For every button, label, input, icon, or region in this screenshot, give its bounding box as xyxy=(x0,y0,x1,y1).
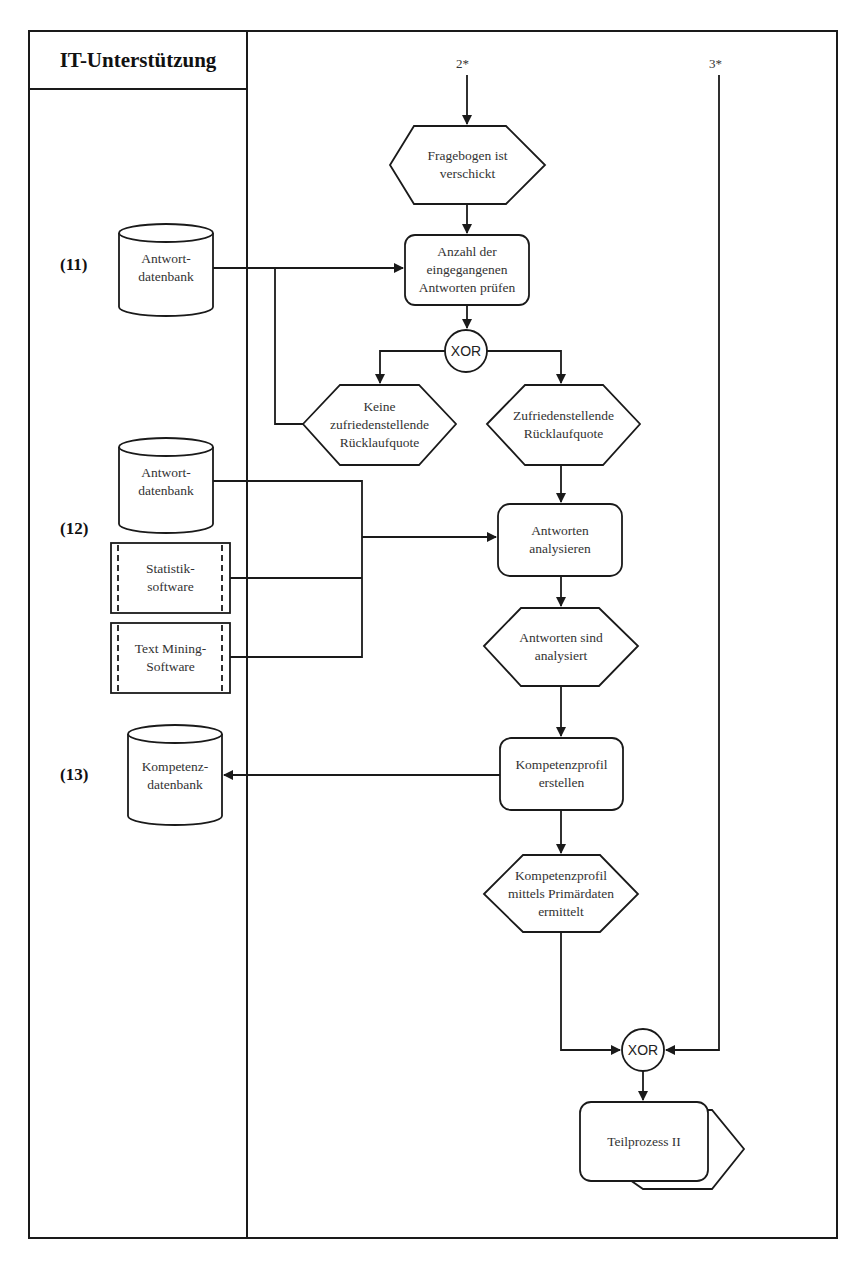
label-line: datenbank xyxy=(147,776,202,794)
label-line: zufriedenstellende xyxy=(330,416,429,434)
system-antwortdatenbank-11: Antwort- datenbank xyxy=(119,248,213,288)
label-line: erstellen xyxy=(539,774,585,792)
label-line: Rücklaufquote xyxy=(524,425,603,443)
connector-label-3: 3* xyxy=(709,56,722,72)
event-antworten-analysiert: Antworten sind analysiert xyxy=(484,608,638,686)
label-line: Kompetenz- xyxy=(142,758,209,776)
label-line: Text Mining- xyxy=(135,640,206,658)
label-line: Fragebogen ist xyxy=(428,147,508,165)
label-line: analysiert xyxy=(535,647,587,665)
label-line: Anzahl der xyxy=(437,243,497,261)
lane-title: IT-Unterstützung xyxy=(30,32,246,88)
label-line: mittels Primärdaten xyxy=(508,885,614,903)
label-line: Antworten sind xyxy=(519,629,603,647)
label-line: Rücklaufquote xyxy=(340,434,419,452)
system-kompetenzdatenbank: Kompetenz- datenbank xyxy=(128,756,222,796)
label-line: Kompetenzprofil xyxy=(515,867,607,885)
group-label-13: (13) xyxy=(60,765,88,785)
label-line: Software xyxy=(146,658,195,676)
group-label-11: (11) xyxy=(60,255,87,275)
label-line: ermittelt xyxy=(538,903,584,921)
label-line: Statistik- xyxy=(146,560,195,578)
label-line: Antworten xyxy=(531,522,589,540)
event-keine-rucklaufquote: Keine zufriedenstellende Rücklaufquote xyxy=(303,385,456,465)
function-antworten-analysieren: Antworten analysieren xyxy=(498,504,622,576)
label-line: eingegangenen xyxy=(427,261,508,279)
label-line: verschickt xyxy=(440,165,495,183)
function-antworten-pruefen: Anzahl der eingegangenen Antworten prüfe… xyxy=(405,235,529,305)
label-line: analysieren xyxy=(529,540,590,558)
label-line: Antwort- xyxy=(141,250,191,268)
label-line: Antworten prüfen xyxy=(419,279,515,297)
group-label-12: (12) xyxy=(60,519,88,539)
label-line: Keine xyxy=(363,398,395,416)
label-line: datenbank xyxy=(138,268,193,286)
label-line: Zufriedenstellende xyxy=(513,407,614,425)
label-line: software xyxy=(147,578,193,596)
xor-operator: XOR xyxy=(445,330,487,372)
system-antwortdatenbank-12: Antwort- datenbank xyxy=(119,462,213,502)
connector-label-2: 2* xyxy=(456,56,469,72)
process-interface-teilprozess-2: Teilprozess II xyxy=(580,1102,708,1181)
xor-operator: XOR xyxy=(622,1029,664,1071)
system-statistiksoftware: Statistik- software xyxy=(111,543,230,613)
label-line: Antwort- xyxy=(141,464,191,482)
function-kompetenzprofil-erstellen: Kompetenzprofil erstellen xyxy=(500,738,623,810)
system-textmining-software: Text Mining- Software xyxy=(111,623,230,693)
event-fragebogen-verschickt: Fragebogen ist verschickt xyxy=(390,126,545,204)
label-line: Kompetenzprofil xyxy=(515,756,607,774)
event-kompetenzprofil-ermittelt: Kompetenzprofil mittels Primärdaten ermi… xyxy=(484,855,638,932)
event-zufriedenstellende-rucklaufquote: Zufriedenstellende Rücklaufquote xyxy=(487,385,640,465)
label-line: datenbank xyxy=(138,482,193,500)
